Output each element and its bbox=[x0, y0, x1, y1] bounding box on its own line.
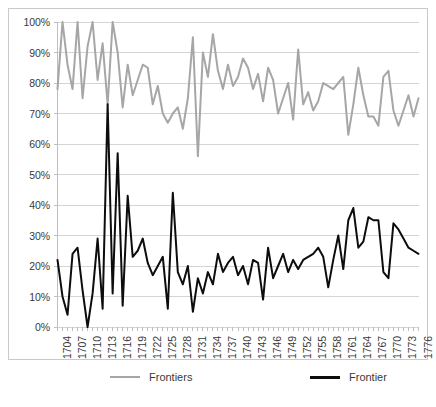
x-axis-tick-label: 1716 bbox=[122, 336, 132, 359]
y-axis-tick-label: 70% bbox=[6, 109, 50, 119]
x-axis-tick-label: 1770 bbox=[392, 336, 402, 359]
x-axis-tick-label: 1758 bbox=[332, 336, 342, 359]
legend-label: Frontiers bbox=[149, 371, 192, 383]
y-axis-tick-label: 100% bbox=[6, 17, 50, 27]
series-frontier bbox=[58, 104, 419, 327]
axis-ticks bbox=[54, 22, 419, 331]
y-axis-tick-label: 80% bbox=[6, 78, 50, 88]
legend-swatch-icon bbox=[310, 376, 340, 379]
y-axis-tick-label: 90% bbox=[6, 48, 50, 58]
legend-swatch-icon bbox=[110, 376, 140, 378]
x-axis-tick-label: 1767 bbox=[377, 336, 387, 359]
y-axis-tick-label: 10% bbox=[6, 292, 50, 302]
x-axis-tick-label: 1773 bbox=[407, 336, 417, 359]
x-axis-tick-label: 1743 bbox=[257, 336, 267, 359]
x-axis-tick-label: 1719 bbox=[137, 336, 147, 359]
x-axis-tick-label: 1764 bbox=[362, 336, 372, 359]
legend-item: Frontier bbox=[310, 368, 387, 386]
x-axis-tick-label: 1761 bbox=[347, 336, 357, 359]
x-axis-tick-label: 1710 bbox=[92, 336, 102, 359]
x-axis-tick-label: 1755 bbox=[317, 336, 327, 359]
x-axis-tick-label: 1740 bbox=[242, 336, 252, 359]
legend-item: Frontiers bbox=[110, 368, 192, 386]
x-axis-tick-label: 1704 bbox=[62, 336, 72, 359]
x-axis-tick-label: 1722 bbox=[152, 336, 162, 359]
x-axis-tick-label: 1707 bbox=[77, 336, 87, 359]
series-line bbox=[58, 22, 419, 156]
y-axis-tick-label: 40% bbox=[6, 200, 50, 210]
x-axis-tick-label: 1728 bbox=[182, 336, 192, 359]
series-frontiers bbox=[58, 22, 419, 156]
legend-label: Frontier bbox=[349, 371, 387, 383]
x-axis-tick-label: 1746 bbox=[272, 336, 282, 359]
x-axis-tick-label: 1725 bbox=[167, 336, 177, 359]
chart-legend: FrontiersFrontier bbox=[8, 368, 428, 390]
x-axis-tick-label: 1734 bbox=[212, 336, 222, 359]
y-axis-tick-label: 30% bbox=[6, 231, 50, 241]
x-axis-tick-label: 1731 bbox=[197, 336, 207, 359]
y-axis-tick-label: 60% bbox=[6, 139, 50, 149]
y-axis-tick-label: 20% bbox=[6, 261, 50, 271]
y-axis-tick-label: 0% bbox=[6, 322, 50, 332]
x-axis-tick-label: 1776 bbox=[423, 336, 433, 359]
series-line bbox=[58, 104, 419, 327]
chart-figure: 0%10%20%30%40%50%60%70%80%90%100% 170417… bbox=[0, 0, 436, 407]
x-axis-tick-label: 1737 bbox=[227, 336, 237, 359]
x-axis-tick-label: 1752 bbox=[302, 336, 312, 359]
y-axis-tick-label: 50% bbox=[6, 170, 50, 180]
x-axis-tick-label: 1749 bbox=[287, 336, 297, 359]
x-axis-tick-label: 1713 bbox=[107, 336, 117, 359]
